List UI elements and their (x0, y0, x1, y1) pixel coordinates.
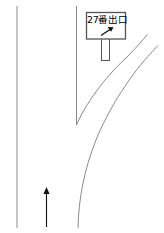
ramp-outer-curve (78, 46, 158, 229)
sign-post (102, 39, 110, 61)
road-exit-diagram: 27番出口 (0, 0, 164, 233)
arrow-up-icon (43, 187, 49, 227)
sign-label: 27番出口 (87, 14, 125, 26)
diagram-canvas (0, 0, 164, 233)
ramp-inner-curve (77, 35, 148, 126)
